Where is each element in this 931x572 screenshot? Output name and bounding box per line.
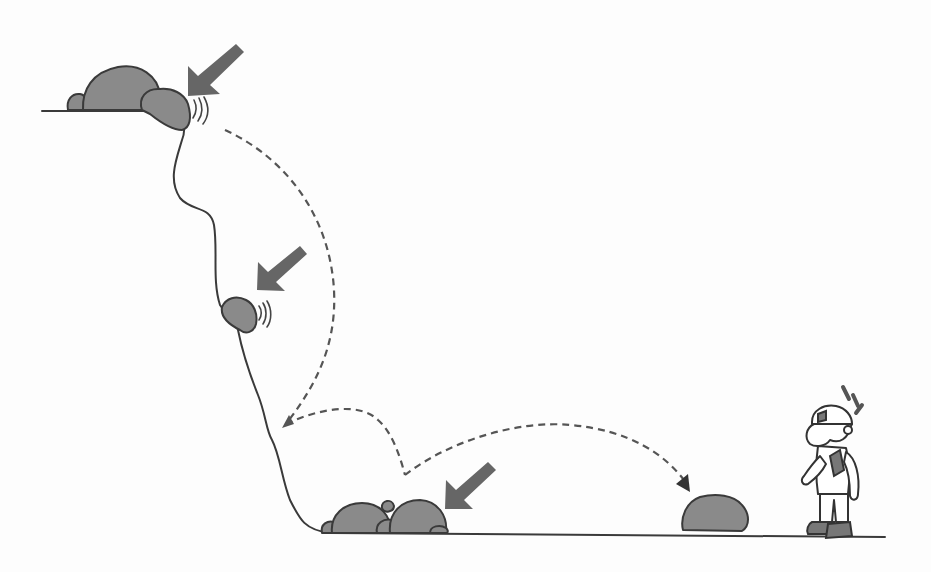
boot-right [826, 522, 852, 538]
vibration-mark [263, 303, 266, 324]
indicator-arrow-base-icon [445, 462, 496, 509]
trajectory-arrowhead-end-icon [676, 474, 690, 492]
worker-legs [820, 494, 848, 522]
rockfall-trajectory [225, 130, 690, 492]
rockfall-diagram [0, 0, 931, 572]
trajectory-segment-3 [405, 424, 684, 480]
vibration-mark [267, 301, 271, 327]
alert-marks-icon [843, 387, 862, 413]
rock-mid [222, 298, 257, 333]
rock-base-pebble-top [382, 501, 394, 512]
hard-hat-badge [818, 411, 826, 422]
fallen-rock [682, 495, 748, 531]
base-rocks [322, 500, 448, 533]
trajectory-segment-2 [286, 409, 405, 475]
worker-figure [802, 387, 862, 538]
rock-edge-loose [141, 89, 190, 130]
indicator-arrow-mid-icon [257, 246, 307, 291]
diagram-canvas [0, 0, 931, 572]
indicator-arrow-top-icon [188, 44, 244, 96]
rock-base-tiny-right [430, 526, 448, 533]
mid-cliff-rock [222, 298, 271, 333]
vibration-mark [259, 306, 261, 320]
terrain [42, 111, 885, 537]
cliff-top-rocks [68, 66, 190, 130]
worker-ear [844, 426, 852, 434]
vibration-marks-top [193, 97, 208, 124]
